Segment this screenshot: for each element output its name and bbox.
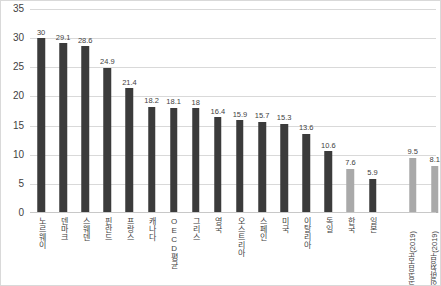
- bar-value-label: 18.1: [166, 98, 181, 106]
- bar[interactable]: [280, 124, 288, 213]
- bar-value-label: 18.2: [144, 97, 159, 105]
- category-label: 공공부문(2019): [409, 231, 417, 285]
- bar-slot: 5.9: [362, 9, 384, 213]
- bar[interactable]: [148, 107, 156, 213]
- bar[interactable]: [104, 68, 112, 213]
- bar[interactable]: [302, 134, 310, 213]
- bar[interactable]: [409, 158, 417, 213]
- category-label-slot: 스페인: [251, 217, 273, 285]
- bar-chart: 05101520253035 3029.128.624.921.418.218.…: [0, 0, 441, 286]
- category-label-slot: 프랑스: [118, 217, 140, 285]
- category-label-slot: 노르웨이: [30, 217, 52, 285]
- category-label-slot: 그리스: [185, 217, 207, 285]
- category-label-slot: 독일: [317, 217, 339, 285]
- bar-value-label: 18: [192, 99, 200, 107]
- bar-value-label: 15.7: [255, 112, 270, 120]
- bar-value-label: 5.9: [367, 169, 377, 177]
- category-label: 프랑스: [125, 217, 133, 241]
- bar-value-label: 7.6: [345, 159, 355, 167]
- bar[interactable]: [81, 46, 89, 213]
- bar[interactable]: [431, 166, 439, 213]
- bars-container: 3029.128.624.921.418.218.11816.415.915.7…: [30, 9, 436, 213]
- bar-slot: 28.6: [74, 9, 96, 213]
- category-label: 핀란드: [103, 217, 111, 241]
- category-label: 스웨덴: [81, 217, 89, 241]
- category-label: 영국: [214, 217, 222, 233]
- bar-value-label: 8.1: [430, 156, 440, 164]
- category-label: 캐나다: [147, 217, 155, 241]
- category-label: 이탈리아: [302, 217, 310, 249]
- category-label-slot: 공공부문(2019): [402, 217, 424, 285]
- bar[interactable]: [258, 122, 266, 214]
- category-label-slot: 한국: [339, 217, 361, 285]
- bar-slot: 29.1: [52, 9, 74, 213]
- bar-slot: 30: [30, 9, 52, 213]
- bar-value-label: 30: [37, 29, 45, 37]
- category-label-slot: 일본: [362, 217, 384, 285]
- bar-slot: 15.3: [273, 9, 295, 213]
- y-axis-tick-0: 0: [18, 208, 24, 218]
- category-label: 일반정부(2019): [431, 231, 439, 285]
- category-label-slot: 이탈리아: [295, 217, 317, 285]
- category-label: 노르웨이: [37, 217, 45, 249]
- category-label-slot: 일반정부(2019): [424, 217, 441, 285]
- category-label: 스페인: [258, 217, 266, 241]
- y-axis-tick-25: 25: [13, 62, 24, 72]
- bar-slot: 18.2: [141, 9, 163, 213]
- category-label-slot: 덴마크: [52, 217, 74, 285]
- bar[interactable]: [192, 108, 200, 213]
- category-label-slot: OECD평균: [163, 217, 185, 285]
- bar-slot: 13.6: [295, 9, 317, 213]
- bar-slot: 24.9: [96, 9, 118, 213]
- bar[interactable]: [170, 108, 178, 213]
- bar-slot: 15.7: [251, 9, 273, 213]
- y-axis-tick-20: 20: [13, 91, 24, 101]
- y-axis-tick-30: 30: [13, 33, 24, 43]
- bar-slot: 9.5: [402, 9, 424, 213]
- category-label-slot: 영국: [207, 217, 229, 285]
- bar[interactable]: [325, 151, 333, 213]
- plot-area: 3029.128.624.921.418.218.11816.415.915.7…: [30, 9, 436, 213]
- bar-slot: 8.1: [424, 9, 441, 213]
- y-axis-tick-35: 35: [13, 4, 24, 14]
- bar-value-label: 28.6: [78, 37, 93, 45]
- category-label-slot: 핀란드: [96, 217, 118, 285]
- category-label-slot: 오스트리아: [229, 217, 251, 285]
- category-label: 덴마크: [59, 217, 67, 241]
- bar-slot: 15.9: [229, 9, 251, 213]
- bar-value-label: 21.4: [122, 79, 137, 87]
- bar-slot: 18: [185, 9, 207, 213]
- bar[interactable]: [369, 179, 377, 213]
- category-label: 미국: [280, 217, 288, 233]
- bar[interactable]: [126, 88, 134, 213]
- y-axis-tick-5: 5: [18, 179, 24, 189]
- bar-value-label: 16.4: [211, 108, 226, 116]
- x-axis-category-labels: 노르웨이덴마크스웨덴핀란드프랑스캐나다OECD평균그리스영국오스트리아스페인미국…: [30, 217, 436, 285]
- bar-value-label: 10.6: [321, 142, 336, 150]
- y-axis-labels: 05101520253035: [1, 9, 28, 213]
- category-label: 그리스: [192, 217, 200, 241]
- category-label: 독일: [324, 217, 332, 233]
- bar-value-label: 24.9: [100, 58, 115, 66]
- y-axis-tick-10: 10: [13, 150, 24, 160]
- bar-slot: 21.4: [118, 9, 140, 213]
- y-axis-tick-15: 15: [13, 121, 24, 131]
- x-axis-line: [30, 212, 436, 213]
- category-label-slot: 캐나다: [141, 217, 163, 285]
- category-label-slot: 미국: [273, 217, 295, 285]
- bar-value-label: 9.5: [407, 148, 417, 156]
- bar-slot: 7.6: [339, 9, 361, 213]
- bar[interactable]: [214, 117, 222, 213]
- bar[interactable]: [59, 43, 67, 213]
- bar-slot: 10.6: [317, 9, 339, 213]
- category-label: OECD평균: [170, 217, 178, 269]
- bar-slot: 16.4: [207, 9, 229, 213]
- category-label: 일본: [368, 217, 376, 233]
- category-label: 한국: [346, 217, 354, 233]
- bar[interactable]: [236, 120, 244, 213]
- bar-value-label: 29.1: [56, 34, 71, 42]
- bar[interactable]: [347, 169, 355, 213]
- bar-value-label: 15.9: [233, 111, 248, 119]
- bar[interactable]: [37, 38, 45, 213]
- bar-value-label: 13.6: [299, 124, 314, 132]
